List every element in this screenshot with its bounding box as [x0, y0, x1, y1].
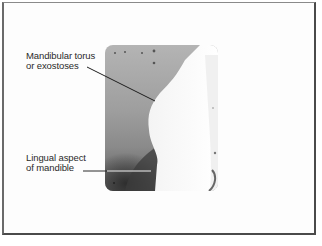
torus-label: Mandibular torus or exostoses: [26, 51, 95, 71]
lingual-label: Lingual aspect of mandible: [26, 153, 86, 173]
torus-leader-line: [87, 67, 155, 101]
torus-label-line-2: or exostoses: [26, 61, 95, 71]
lingual-label-line-2: of mandible: [26, 163, 86, 173]
leader-lines: [0, 0, 322, 246]
